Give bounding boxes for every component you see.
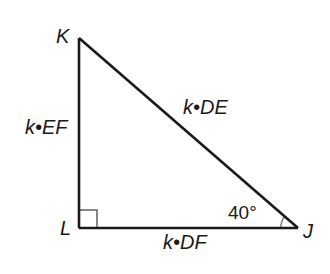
triangle-diagram: K L J k•EF k•DE k•DF 40° bbox=[0, 0, 330, 274]
vertex-label-k: K bbox=[56, 26, 69, 46]
angle-label-j: 40° bbox=[228, 203, 257, 222]
vertex-label-l: L bbox=[60, 218, 71, 238]
side-label-kl: k•EF bbox=[25, 117, 68, 137]
vertex-label-j: J bbox=[303, 221, 313, 241]
right-angle-marker bbox=[79, 210, 97, 228]
side-label-kj: k•DE bbox=[183, 97, 228, 117]
side-label-lj: k•DF bbox=[163, 232, 207, 252]
side-kj bbox=[79, 38, 298, 228]
